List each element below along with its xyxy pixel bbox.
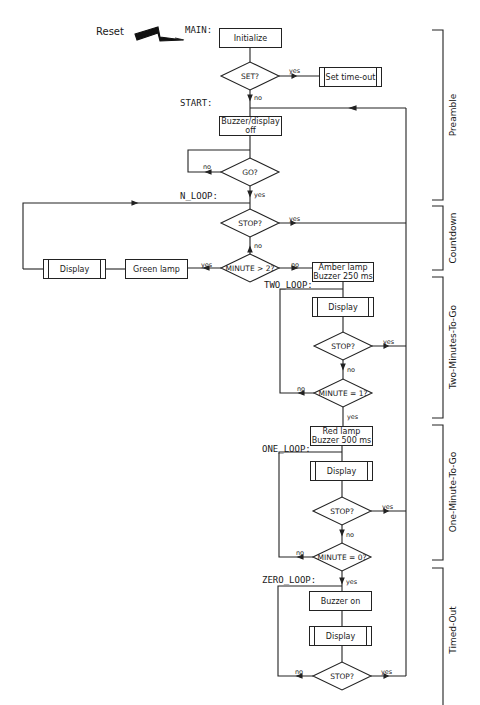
box-display-countdown: Display bbox=[43, 259, 106, 279]
decision-go-label: GO? bbox=[242, 168, 258, 177]
decision-stop-one-label: STOP? bbox=[330, 507, 354, 516]
section-one-minute-to-go: One-Minute-To-Go bbox=[448, 452, 458, 532]
label-start: START: bbox=[180, 98, 213, 108]
branch-yes: yes bbox=[254, 191, 265, 199]
label-zero-loop: ZERO_LOOP: bbox=[262, 575, 316, 585]
reset-label: Reset bbox=[96, 26, 124, 37]
label-main: MAIN: bbox=[185, 25, 212, 35]
decision-minute-gt-2-label: MINUTE > 2? bbox=[226, 264, 275, 273]
box-set-timeout: Set time-out bbox=[319, 67, 382, 87]
branch-no: no bbox=[296, 549, 304, 557]
box-red-lamp: Red lamp Buzzer 500 ms bbox=[310, 426, 373, 446]
section-countdown: Countdown bbox=[448, 212, 458, 263]
section-preamble: Preamble bbox=[448, 94, 458, 136]
section-two-minutes-to-go: Two-Minutes-To-Go bbox=[448, 305, 458, 389]
branch-no: no bbox=[295, 668, 303, 676]
branch-yes: yes bbox=[289, 67, 300, 75]
flowchart-connectors bbox=[0, 0, 480, 705]
branch-no: no bbox=[346, 531, 354, 539]
box-initialize: Initialize bbox=[219, 28, 282, 48]
decision-stop-two-label: STOP? bbox=[331, 342, 355, 351]
lightning-bolt-icon bbox=[135, 27, 183, 41]
decision-set-label: SET? bbox=[241, 72, 259, 81]
decision-stop-countdown-label: STOP? bbox=[238, 219, 262, 228]
decision-minute-eq-0-label: MINUTE = 0? bbox=[318, 553, 367, 562]
box-buzzer-display-off: Buzzer/display off bbox=[219, 116, 282, 136]
branch-yes: yes bbox=[289, 215, 300, 223]
label-n-loop: N_LOOP: bbox=[180, 191, 218, 201]
branch-yes: yes bbox=[382, 503, 393, 511]
branch-yes: yes bbox=[381, 668, 392, 676]
label-two-loop: TWO_LOOP: bbox=[264, 280, 313, 290]
section-timed-out: Timed-Out bbox=[448, 606, 458, 654]
branch-no: no bbox=[297, 385, 305, 393]
branch-no: no bbox=[203, 163, 211, 171]
box-buzzer-on: Buzzer on bbox=[309, 591, 372, 611]
branch-no: no bbox=[291, 261, 299, 269]
branch-yes: yes bbox=[383, 338, 394, 346]
box-green-lamp: Green lamp bbox=[125, 259, 188, 279]
box-display-two: Display bbox=[312, 297, 374, 317]
box-display-one: Display bbox=[310, 461, 373, 481]
branch-no: no bbox=[254, 242, 262, 250]
decision-minute-eq-1-label: MINUTE = 1? bbox=[319, 389, 368, 398]
branch-yes: yes bbox=[347, 413, 358, 421]
box-amber-lamp: Amber lamp Buzzer 250 ms bbox=[312, 262, 374, 282]
branch-no: no bbox=[347, 366, 355, 374]
branch-yes: yes bbox=[201, 261, 212, 269]
box-display-zero: Display bbox=[309, 626, 372, 646]
label-one-loop: ONE_LOOP: bbox=[262, 444, 311, 454]
decision-stop-zero-label: STOP? bbox=[330, 672, 354, 681]
branch-yes: yes bbox=[346, 578, 357, 586]
branch-no: no bbox=[254, 94, 262, 102]
